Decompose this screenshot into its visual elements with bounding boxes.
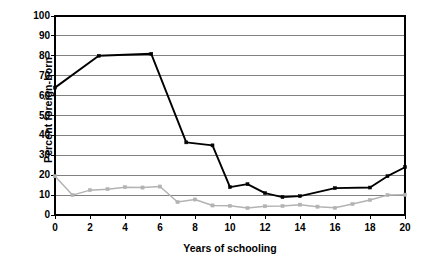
data-point-marker: [351, 202, 354, 205]
data-point-marker: [71, 194, 74, 197]
data-point-marker: [368, 198, 371, 201]
data-point-marker: [229, 186, 232, 189]
data-point-marker: [211, 204, 214, 207]
series-gray-series: [53, 175, 406, 210]
data-point-marker: [386, 194, 389, 197]
data-point-marker: [106, 188, 109, 191]
data-point-marker: [211, 144, 214, 147]
data-point-marker: [176, 200, 179, 203]
data-point-marker: [281, 196, 284, 199]
series-black-series: [54, 52, 407, 198]
data-point-marker: [334, 187, 337, 190]
data-point-marker: [299, 195, 302, 198]
data-point-marker: [193, 198, 196, 201]
data-point-marker: [158, 185, 161, 188]
plot-area: [0, 0, 425, 264]
data-point-marker: [150, 52, 153, 55]
data-point-marker: [404, 166, 407, 169]
data-point-marker: [281, 204, 284, 207]
data-point-marker: [316, 205, 319, 208]
data-point-marker: [369, 186, 372, 189]
line-chart: Percent foreign-born 1009080706050403020…: [0, 0, 425, 264]
data-point-marker: [123, 186, 126, 189]
data-point-marker: [54, 86, 57, 89]
data-point-marker: [264, 192, 267, 195]
data-point-marker: [386, 175, 389, 178]
data-point-marker: [53, 175, 56, 178]
data-point-marker: [88, 189, 91, 192]
data-point-marker: [141, 186, 144, 189]
data-point-marker: [263, 205, 266, 208]
x-tick-marks: [55, 215, 405, 219]
data-point-marker: [403, 193, 406, 196]
data-point-marker: [97, 54, 100, 57]
data-point-marker: [228, 204, 231, 207]
data-point-marker: [298, 203, 301, 206]
data-point-marker: [246, 183, 249, 186]
data-point-marker: [333, 206, 336, 209]
data-point-marker: [246, 206, 249, 209]
data-point-marker: [185, 141, 188, 144]
